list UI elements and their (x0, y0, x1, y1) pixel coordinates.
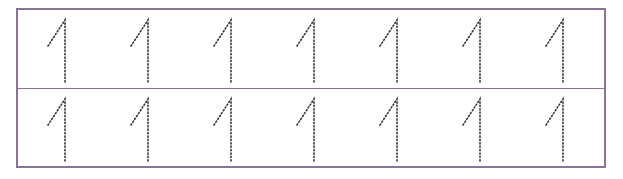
dotted-digit-1: 1 (211, 18, 241, 88)
dotted-digit-1: 1 (294, 97, 324, 167)
dotted-digit-1: 1 (377, 18, 407, 88)
dotted-digit-1: 1 (45, 97, 75, 167)
tracing-row-2: 1111111 (18, 89, 604, 167)
dotted-digit-1: 1 (543, 18, 573, 88)
dotted-digit-1: 1 (294, 18, 324, 88)
tracing-worksheet: 1111111 1111111 (16, 8, 606, 168)
dotted-digit-1: 1 (460, 97, 490, 167)
dotted-digit-1: 1 (45, 18, 75, 88)
dotted-digit-1: 1 (543, 97, 573, 167)
dotted-digit-1: 1 (211, 97, 241, 167)
dotted-digit-1: 1 (128, 97, 158, 167)
dotted-digit-1: 1 (377, 97, 407, 167)
tracing-row-1: 1111111 (18, 10, 604, 88)
dotted-digit-1: 1 (460, 18, 490, 88)
dotted-digit-1: 1 (128, 18, 158, 88)
